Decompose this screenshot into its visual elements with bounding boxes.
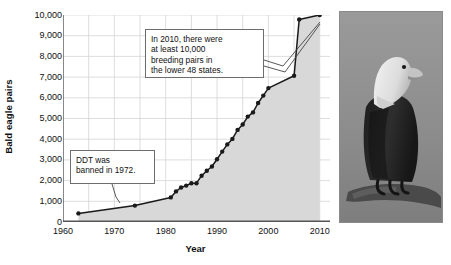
- data-point: [76, 211, 80, 215]
- data-point: [220, 149, 224, 153]
- data-point: [199, 174, 203, 178]
- ddt-callout-line-1: DDT was: [76, 155, 149, 165]
- chart-container: Bald eagle pairs 01,0002,0003,0004,0005,…: [0, 0, 340, 265]
- data-point: [189, 181, 193, 185]
- data-point: [235, 128, 239, 132]
- data-point: [210, 164, 214, 168]
- y-tick-label: 4,000: [16, 135, 62, 144]
- data-point: [292, 74, 296, 78]
- y-tick-label: 2,000: [16, 176, 62, 185]
- y-tick-label: 8,000: [16, 52, 62, 61]
- x-tick-label: 1980: [146, 226, 186, 236]
- x-axis-title: Year: [63, 243, 328, 254]
- y-tick-label: 5,000: [16, 114, 62, 123]
- y-tick-label: 10,000: [16, 11, 62, 20]
- data-point: [169, 195, 173, 199]
- y-tick-label: 6,000: [16, 93, 62, 102]
- data-point: [266, 86, 270, 90]
- data-point: [215, 157, 219, 161]
- data-point: [179, 185, 183, 189]
- x-tick-label: 2010: [300, 226, 340, 236]
- y-tick-label: 1,000: [16, 197, 62, 206]
- y-axis-title: Bald eagle pairs: [1, 56, 15, 176]
- recovery-callout-line-1: In 2010, there were: [151, 34, 258, 44]
- x-axis-tick-labels: 196019701980199020002010: [0, 226, 340, 240]
- data-point: [297, 17, 301, 21]
- data-point: [205, 169, 209, 173]
- y-tick-label: 7,000: [16, 73, 62, 82]
- recovery-callout-line-3: breeding pairs in: [151, 55, 258, 65]
- data-point: [241, 122, 245, 126]
- x-tick-label: 1990: [197, 226, 237, 236]
- recovery-callout-line-2: at least 10,000: [151, 44, 258, 54]
- data-point: [261, 93, 265, 97]
- ddt-callout: DDT was banned in 1972.: [70, 150, 155, 184]
- ddt-callout-line-2: banned in 1972.: [76, 165, 149, 175]
- recovery-callout-line-4: the lower 48 states.: [151, 65, 258, 75]
- data-point: [194, 181, 198, 185]
- data-point: [225, 142, 229, 146]
- data-point: [251, 110, 255, 114]
- eagle-eye: [402, 65, 406, 69]
- recovery-callout: In 2010, there were at least 10,000 bree…: [145, 29, 264, 78]
- y-axis-title-text: Bald eagle pairs: [3, 79, 14, 153]
- y-tick-label: 9,000: [16, 31, 62, 40]
- y-tick-label: 3,000: [16, 155, 62, 164]
- bald-eagle-illustration: [340, 12, 442, 222]
- data-point: [184, 183, 188, 187]
- x-tick-label: 1960: [43, 226, 83, 236]
- bald-eagle-photo: [339, 11, 443, 223]
- x-tick-label: 2000: [248, 226, 288, 236]
- data-point: [256, 101, 260, 105]
- data-point: [230, 137, 234, 141]
- x-tick-label: 1970: [94, 226, 134, 236]
- data-point: [174, 189, 178, 193]
- bald-eagle-population-figure: Bald eagle pairs 01,0002,0003,0004,0005,…: [0, 0, 451, 265]
- data-point: [133, 203, 137, 207]
- data-point: [246, 114, 250, 118]
